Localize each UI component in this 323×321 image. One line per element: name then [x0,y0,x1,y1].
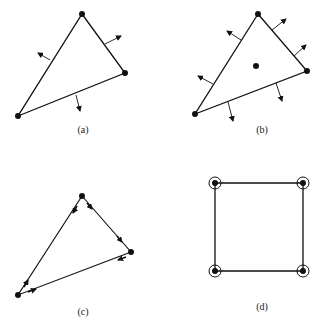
half-edge-arrow [117,236,122,242]
normal-arrow [105,36,121,44]
vertex-dot [128,249,134,255]
outline [215,183,303,271]
panel-a-label: (a) [77,124,88,136]
normal-arrow [276,83,282,101]
vertex-dot [122,70,128,76]
vertex-dot [255,11,261,17]
panel-d-square-circled-vertices [209,177,309,277]
half-edge-arrow [24,280,28,287]
vertex-dot [15,292,21,298]
normal-arrow [227,31,241,40]
panel-b-triangle-with-normals-and-center [192,11,310,121]
half-edge-arrow [118,257,126,260]
panel-b-label: (b) [256,124,268,136]
panel-c-triangle-half-edges [15,193,134,298]
outline [18,14,125,116]
vertex-dot [212,180,218,186]
panel-c-label: (c) [77,306,88,318]
vertex-dot [304,68,310,74]
vertex-dot [79,11,85,17]
normal-arrow [272,19,286,30]
figure-canvas: (a) (b) (c) (d) [0,0,323,321]
vertex-dot [300,268,306,274]
normal-arrow [38,53,50,60]
vertex-dot [15,113,21,119]
vertex-dot [212,268,218,274]
figure-svg: (a) (b) (c) (d) [0,0,323,321]
outline [195,14,307,114]
normal-arrow [294,45,306,56]
vertex-dot [79,193,85,199]
vertex-dot [192,111,198,117]
normal-arrow [228,102,233,121]
panel-a-triangle-with-normals [15,11,128,119]
normal-arrow [76,95,80,111]
vertex-dot [300,180,306,186]
normal-arrow [198,76,213,84]
center-dot [253,63,259,69]
panel-d-label: (d) [256,301,268,313]
